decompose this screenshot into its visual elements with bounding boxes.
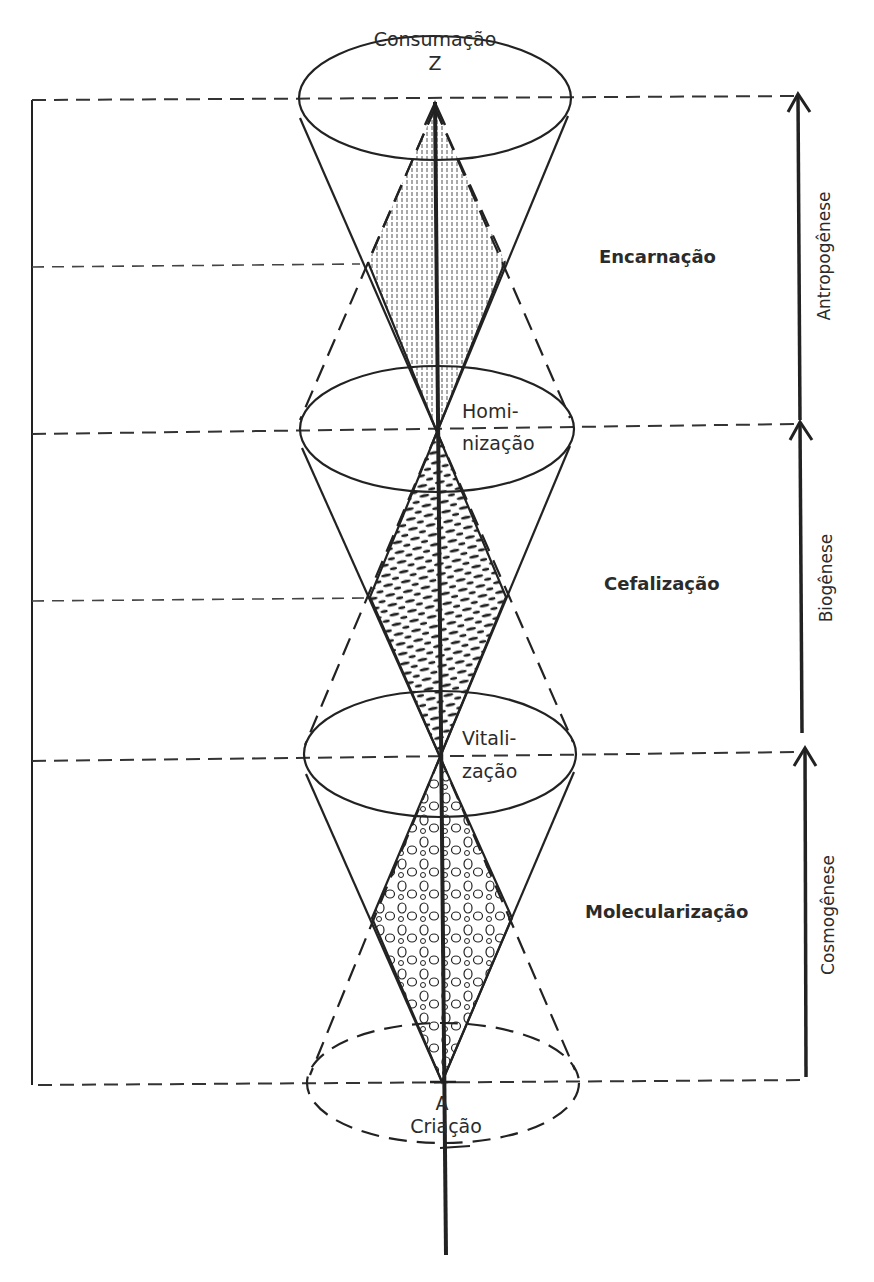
vitalizacao-label-line1: Vitali-	[462, 727, 516, 749]
cosmogenese-label: Cosmogênese	[818, 855, 838, 975]
encarnacao-label: Encarnação	[599, 246, 716, 267]
z-point-label: Z	[428, 52, 441, 74]
consumacao-label: Consumação	[374, 28, 497, 50]
antropogenese-label: Antropogênese	[814, 191, 834, 320]
cefalizacao-label: Cefalização	[604, 573, 720, 594]
evolution-cone-diagram: Consumação Z Homi- nização Vitali- zação…	[0, 0, 874, 1282]
cosmogenese-arrow	[794, 748, 816, 1077]
hominizacao-label-line1: Homi-	[462, 400, 519, 422]
antropogenese-arrow	[788, 94, 810, 420]
biogenese-arrow	[790, 422, 812, 733]
a-point-label: A	[436, 1092, 449, 1114]
criacao-label: Criação	[410, 1115, 482, 1137]
phase-arrows	[788, 94, 816, 1077]
biogenese-label: Biogênese	[816, 534, 836, 623]
hominizacao-label-line2: nização	[462, 432, 535, 454]
molecularizacao-label: Molecularização	[585, 901, 748, 922]
vitalizacao-label-line2: zação	[462, 760, 517, 782]
